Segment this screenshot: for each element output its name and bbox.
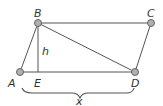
parallelogram-diagram: A B C D E h x bbox=[0, 0, 163, 106]
label-a: A bbox=[7, 77, 16, 90]
vertex-a bbox=[17, 69, 24, 76]
diagonal-bd bbox=[38, 23, 135, 72]
vertex-b bbox=[35, 20, 42, 27]
label-e: E bbox=[34, 77, 41, 90]
side-ab bbox=[20, 23, 38, 72]
label-base: x bbox=[75, 95, 83, 106]
vertex-d bbox=[132, 69, 139, 76]
label-height: h bbox=[42, 45, 49, 58]
side-cd bbox=[135, 23, 151, 72]
label-c: C bbox=[147, 7, 155, 20]
label-b: B bbox=[34, 7, 42, 20]
label-d: D bbox=[131, 77, 139, 90]
vertex-c bbox=[148, 20, 155, 27]
